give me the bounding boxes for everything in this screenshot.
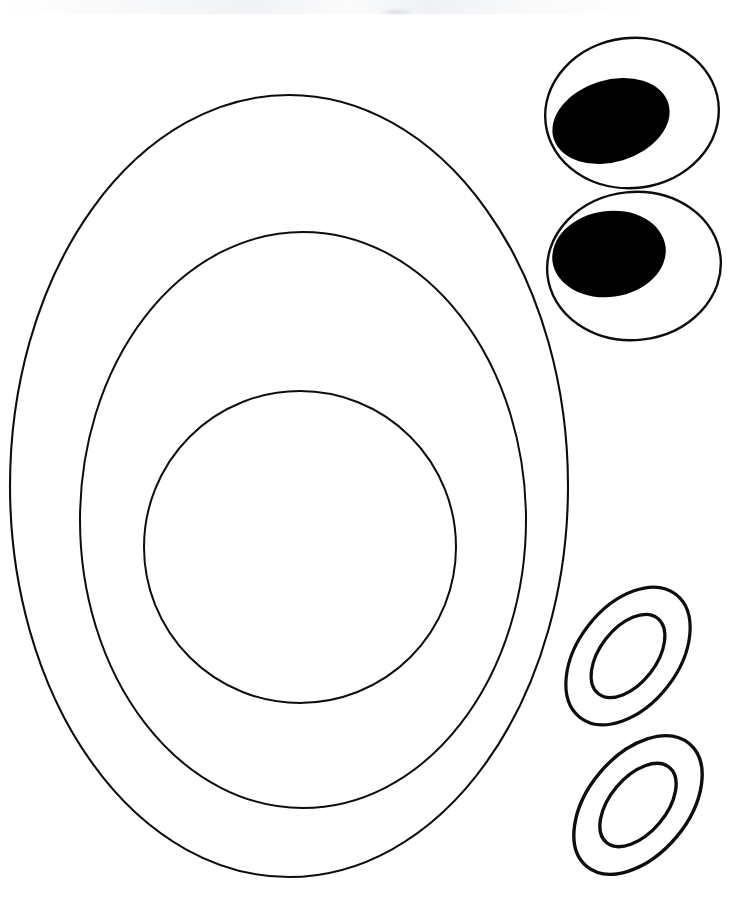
shape-artboard <box>0 0 742 915</box>
page-canvas <box>0 0 742 915</box>
